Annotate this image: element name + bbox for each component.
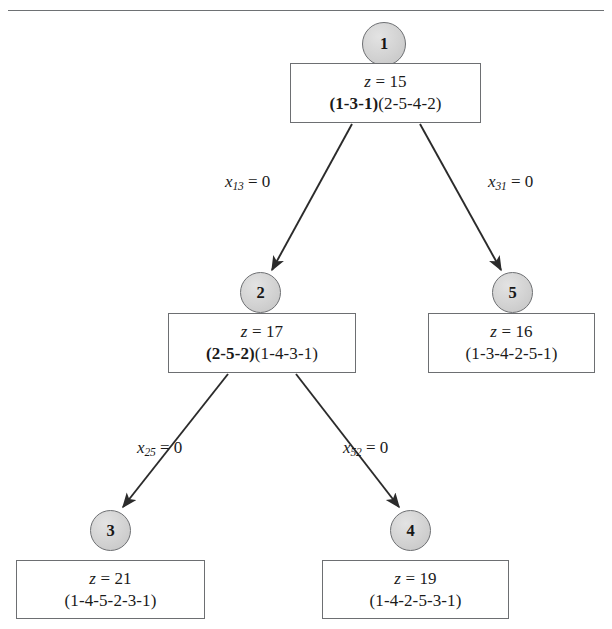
node-1-tours: (1-3-1)(2-5-4-2) bbox=[329, 94, 441, 114]
edge-label-2-to-4-sub: 52 bbox=[351, 446, 362, 458]
node-1-z-value: 15 bbox=[389, 72, 406, 91]
node-box-5[interactable]: z = 16 (1-3-4-2-5-1) bbox=[428, 313, 595, 373]
node-1-objective: z = 15 bbox=[364, 72, 406, 92]
edge-1-to-5 bbox=[420, 124, 501, 270]
edge-label-1-to-2-sub: 13 bbox=[233, 180, 244, 192]
node-circle-1[interactable]: 1 bbox=[362, 22, 406, 66]
edge-label-2-to-4-eq: = 0 bbox=[362, 438, 389, 457]
node-1-tour-bold: (1-3-1) bbox=[329, 94, 378, 113]
edge-label-2-to-4-var: x bbox=[343, 438, 351, 457]
edge-1-to-2 bbox=[272, 124, 352, 270]
edge-label-2-to-3: x25 = 0 bbox=[137, 438, 182, 458]
edge-label-1-to-2-var: x bbox=[225, 172, 233, 191]
edge-label-2-to-3-var: x bbox=[137, 438, 145, 457]
node-2-z-symbol: z bbox=[241, 322, 248, 341]
node-box-3[interactable]: z = 21 (1-4-5-2-3-1) bbox=[16, 560, 205, 619]
node-box-4[interactable]: z = 19 (1-4-2-5-3-1) bbox=[322, 560, 509, 619]
page-header-rule bbox=[8, 10, 604, 11]
edge-label-1-to-5-var: x bbox=[488, 172, 496, 191]
node-3-tours: (1-4-5-2-3-1) bbox=[65, 591, 157, 611]
edge-label-1-to-2-eq: = 0 bbox=[244, 172, 271, 191]
node-circle-2[interactable]: 2 bbox=[240, 272, 281, 313]
node-circle-4[interactable]: 4 bbox=[390, 510, 431, 551]
node-circle-5[interactable]: 5 bbox=[492, 272, 533, 313]
edge-label-1-to-5-eq: = 0 bbox=[507, 172, 534, 191]
node-3-objective: z = 21 bbox=[89, 569, 131, 589]
node-5-z-eq: = bbox=[497, 322, 515, 341]
node-4-z-value: 19 bbox=[419, 569, 436, 588]
node-2-tour-plain: (1-4-3-1) bbox=[255, 344, 318, 363]
node-4-tours: (1-4-2-5-3-1) bbox=[370, 591, 462, 611]
node-box-1[interactable]: z = 15 (1-3-1)(2-5-4-2) bbox=[290, 63, 481, 123]
node-2-objective: z = 17 bbox=[241, 322, 283, 342]
node-2-tour-bold: (2-5-2) bbox=[206, 344, 255, 363]
node-4-objective: z = 19 bbox=[394, 569, 436, 589]
node-circle-2-label: 2 bbox=[256, 283, 264, 303]
node-circle-3[interactable]: 3 bbox=[90, 510, 131, 551]
edge-label-1-to-5: x31 = 0 bbox=[488, 172, 533, 192]
node-2-z-value: 17 bbox=[266, 322, 283, 341]
node-3-z-value: 21 bbox=[114, 569, 131, 588]
node-2-z-eq: = bbox=[248, 322, 266, 341]
node-circle-5-label: 5 bbox=[508, 283, 516, 303]
node-5-tours: (1-3-4-2-5-1) bbox=[466, 344, 558, 364]
node-4-z-eq: = bbox=[401, 569, 419, 588]
node-3-z-eq: = bbox=[96, 569, 114, 588]
branch-and-bound-figure: 1 z = 15 (1-3-1)(2-5-4-2) x13 = 0 x31 = … bbox=[0, 0, 612, 629]
edge-label-2-to-3-eq: = 0 bbox=[156, 438, 183, 457]
node-2-tours: (2-5-2)(1-4-3-1) bbox=[206, 344, 318, 364]
edge-label-2-to-4: x52 = 0 bbox=[343, 438, 388, 458]
node-box-2[interactable]: z = 17 (2-5-2)(1-4-3-1) bbox=[168, 313, 356, 373]
node-5-objective: z = 16 bbox=[490, 322, 532, 342]
node-5-z-value: 16 bbox=[515, 322, 532, 341]
node-circle-4-label: 4 bbox=[406, 521, 414, 541]
edge-label-2-to-3-sub: 25 bbox=[145, 446, 156, 458]
node-1-z-eq: = bbox=[371, 72, 389, 91]
edge-label-1-to-2: x13 = 0 bbox=[225, 172, 270, 192]
node-3-tour-plain: (1-4-5-2-3-1) bbox=[65, 591, 157, 610]
node-1-tour-plain: (2-5-4-2) bbox=[378, 94, 441, 113]
node-4-tour-plain: (1-4-2-5-3-1) bbox=[370, 591, 462, 610]
node-circle-3-label: 3 bbox=[106, 521, 114, 541]
node-circle-1-label: 1 bbox=[380, 34, 388, 54]
node-5-tour-plain: (1-3-4-2-5-1) bbox=[466, 344, 558, 363]
edge-label-1-to-5-sub: 31 bbox=[496, 180, 507, 192]
